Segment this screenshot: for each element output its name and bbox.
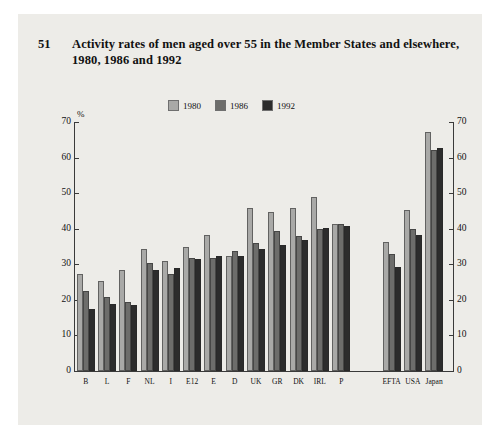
legend-item-1986: 1986	[215, 100, 248, 111]
y-tick-l-0	[75, 371, 79, 372]
figure-panel: 51 Activity rates of men aged over 55 in…	[18, 14, 482, 425]
bar-NL-1992	[153, 270, 159, 371]
y-axis-right	[453, 122, 454, 372]
x-axis-label-EFTA: EFTA	[381, 378, 402, 386]
figure-title-row: 51 Activity rates of men aged over 55 in…	[38, 36, 468, 68]
y-tick-label-l-70: 70	[47, 117, 71, 127]
bar-group-E	[203, 122, 224, 371]
legend-label-1992: 1992	[277, 101, 295, 111]
chart-legend: 198019861992	[168, 100, 295, 111]
bar-P-1992	[344, 226, 350, 371]
bar-group-IRL	[309, 122, 330, 371]
y-tick-label-l-60: 60	[47, 153, 71, 163]
y-tick-label-l-40: 40	[47, 224, 71, 234]
x-axis	[74, 371, 454, 372]
bar-D-1992	[238, 256, 244, 371]
x-axis-label-P: P	[331, 378, 352, 386]
bar-group-F	[118, 122, 139, 371]
x-axis-label-GR: GR	[267, 378, 288, 386]
y-tick-label-l-30: 30	[47, 259, 71, 269]
y-axis-unit-label: %	[77, 109, 85, 119]
x-axis-label-UK: UK	[245, 378, 266, 386]
x-axis-label-E: E	[203, 378, 224, 386]
bar-group-USA	[402, 122, 423, 371]
figure-number: 51	[38, 36, 72, 52]
x-axis-gap	[352, 378, 381, 386]
bar-Japan-1992	[437, 148, 443, 371]
bar-DK-1992	[302, 240, 308, 371]
page-title: Activity rates of men aged over 55 in th…	[72, 36, 468, 68]
x-axis-label-NL: NL	[139, 378, 160, 386]
x-axis-label-IRL: IRL	[309, 378, 330, 386]
x-axis-label-Japan: Japan	[423, 378, 444, 386]
x-axis-label-B: B	[75, 378, 96, 386]
y-tick-label-r-70: 70	[457, 117, 481, 127]
bar-UK-1992	[259, 249, 265, 371]
bar-EFTA-1992	[395, 267, 401, 372]
y-tick-label-r-40: 40	[457, 224, 481, 234]
y-tick-label-l-20: 20	[47, 295, 71, 305]
x-axis-label-F: F	[118, 378, 139, 386]
bar-group-E12	[181, 122, 202, 371]
y-tick-r-0	[449, 371, 453, 372]
bar-group-EFTA	[381, 122, 402, 371]
y-tick-label-r-60: 60	[457, 153, 481, 163]
bar-group-P	[331, 122, 352, 371]
legend-swatch-1986	[215, 100, 226, 111]
legend-item-1980: 1980	[168, 100, 201, 111]
y-tick-label-r-30: 30	[457, 259, 481, 269]
bar-L-1992	[110, 304, 116, 371]
group-separator-gap	[352, 122, 381, 371]
legend-item-1992: 1992	[262, 100, 295, 111]
y-tick-label-l-50: 50	[47, 188, 71, 198]
x-axis-label-L: L	[96, 378, 117, 386]
legend-swatch-1992	[262, 100, 273, 111]
bar-group-UK	[245, 122, 266, 371]
bar-group-B	[75, 122, 96, 371]
x-axis-label-DK: DK	[288, 378, 309, 386]
bar-B-1992	[89, 309, 95, 371]
x-axis-label-USA: USA	[402, 378, 423, 386]
bar-group-DK	[288, 122, 309, 371]
legend-label-1980: 1980	[183, 101, 201, 111]
bar-F-1992	[131, 305, 137, 371]
page-background: 51 Activity rates of men aged over 55 in…	[0, 0, 500, 439]
legend-label-1986: 1986	[230, 101, 248, 111]
x-axis-label-E12: E12	[181, 378, 202, 386]
bar-series-container	[75, 122, 453, 371]
y-tick-label-l-10: 10	[47, 330, 71, 340]
legend-swatch-1980	[168, 100, 179, 111]
y-tick-label-r-20: 20	[457, 295, 481, 305]
bar-group-D	[224, 122, 245, 371]
bar-group-I	[160, 122, 181, 371]
y-tick-label-r-50: 50	[457, 188, 481, 198]
bar-group-GR	[267, 122, 288, 371]
bar-IRL-1992	[323, 228, 329, 371]
bar-group-NL	[139, 122, 160, 371]
bar-group-Japan	[423, 122, 444, 371]
x-axis-labels: BLFNLIE12EDUKGRDKIRLPEFTAUSAJapan	[75, 378, 453, 386]
bar-I-1992	[174, 268, 180, 371]
bar-USA-1992	[416, 235, 422, 371]
x-axis-label-I: I	[160, 378, 181, 386]
bar-E-1992	[216, 256, 222, 371]
y-tick-label-r-0: 0	[457, 366, 481, 376]
bar-GR-1992	[280, 245, 286, 371]
y-tick-label-l-0: 0	[47, 366, 71, 376]
bar-E12-1992	[195, 259, 201, 371]
plot-area: % 001010202030304040505060607070	[74, 122, 454, 372]
y-tick-label-r-10: 10	[457, 330, 481, 340]
x-axis-label-D: D	[224, 378, 245, 386]
bar-group-L	[96, 122, 117, 371]
